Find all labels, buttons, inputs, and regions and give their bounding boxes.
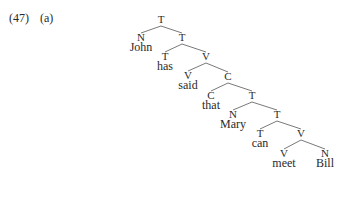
terminal-word: that: [202, 98, 221, 112]
terminal-word: Mary: [220, 117, 246, 131]
terminal-word: Bill: [316, 156, 335, 170]
category-label-v: V: [297, 127, 305, 139]
syntax-tree: TNJohnTThasVVsaidCCthatTNMaryTTcanVVmeet…: [0, 0, 352, 207]
terminal-word: can: [252, 136, 269, 150]
terminal-word: has: [157, 59, 173, 73]
category-label-t: T: [158, 13, 165, 25]
terminal-word: John: [130, 40, 153, 54]
category-label-v: V: [202, 50, 210, 62]
tree-nodes: TNJohnTThasVVsaidCCthatTNMaryTTcanVVmeet…: [130, 13, 335, 170]
terminal-word: meet: [272, 156, 296, 170]
category-label-t: T: [179, 31, 186, 43]
terminal-word: said: [178, 78, 197, 92]
category-label-c: C: [224, 70, 231, 82]
category-label-t: T: [274, 108, 281, 120]
category-label-t: T: [249, 89, 256, 101]
